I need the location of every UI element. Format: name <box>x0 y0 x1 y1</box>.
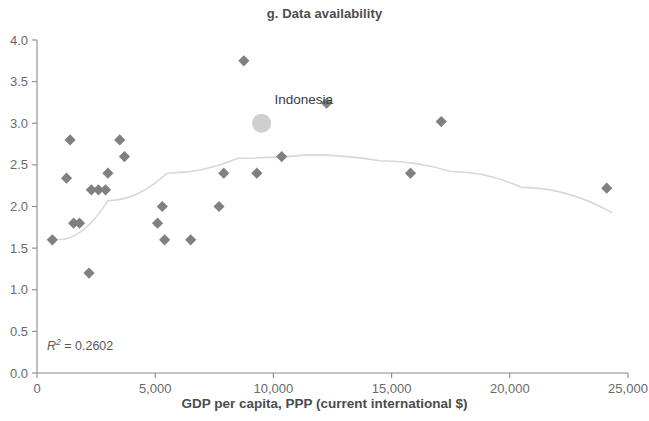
x-tick-label: 5,000 <box>139 381 172 396</box>
scatter-point-diamond <box>83 268 94 279</box>
y-tick-label: 0.0 <box>10 366 28 381</box>
scatter-point-diamond <box>47 234 58 245</box>
x-tick-label: 10,000 <box>254 381 294 396</box>
scatter-point-diamond <box>152 218 163 229</box>
point-label-indonesia: Indonesia <box>275 92 334 107</box>
x-tick-label: 20,000 <box>490 381 530 396</box>
chart-figure: g. Data availability 0.00.51.01.52.02.53… <box>0 0 649 421</box>
scatter-point-diamond <box>64 134 75 145</box>
y-tick-label: 3.5 <box>10 74 28 89</box>
y-tick-label: 4.0 <box>10 33 28 48</box>
x-axis-title: GDP per capita, PPP (current internation… <box>0 396 649 411</box>
y-tick-label: 3.0 <box>10 116 28 131</box>
y-tick-label: 2.0 <box>10 199 28 214</box>
x-tick-label: 15,000 <box>372 381 412 396</box>
x-tick-label: 25,000 <box>608 381 648 396</box>
scatter-point-diamond <box>74 218 85 229</box>
y-tick-label: 1.0 <box>10 282 28 297</box>
scatter-point-diamond <box>185 234 196 245</box>
r-squared-value: = 0.2602 <box>61 339 113 353</box>
scatter-point-diamond <box>61 173 72 184</box>
r-squared-annotation: R2 = 0.2602 <box>47 337 113 353</box>
scatter-point-diamond <box>251 168 262 179</box>
scatter-point-diamond <box>276 151 287 162</box>
scatter-point-diamond <box>213 201 224 212</box>
scatter-point-diamond <box>405 168 416 179</box>
scatter-point-diamond <box>102 168 113 179</box>
scatter-point-diamond <box>436 116 447 127</box>
scatter-point-diamond <box>238 55 249 66</box>
scatter-plot-canvas: 0.00.51.01.52.02.53.03.54.005,00010,0001… <box>0 0 649 421</box>
scatter-point-diamond <box>601 183 612 194</box>
trendline <box>58 155 611 240</box>
trendline-path <box>58 155 611 240</box>
x-tick-label: 0 <box>33 381 40 396</box>
scatter-point-diamond <box>218 168 229 179</box>
scatter-point-diamond <box>119 151 130 162</box>
y-tick-label: 2.5 <box>10 157 28 172</box>
scatter-point-diamond <box>114 134 125 145</box>
scatter-point-diamond <box>157 201 168 212</box>
data-points <box>47 55 613 278</box>
scatter-point-diamond <box>100 184 111 195</box>
y-tick-label: 0.5 <box>10 324 28 339</box>
scatter-point-highlight <box>252 114 271 133</box>
r-squared-symbol: R2 <box>47 339 61 353</box>
scatter-point-diamond <box>159 234 170 245</box>
y-tick-label: 1.5 <box>10 241 28 256</box>
